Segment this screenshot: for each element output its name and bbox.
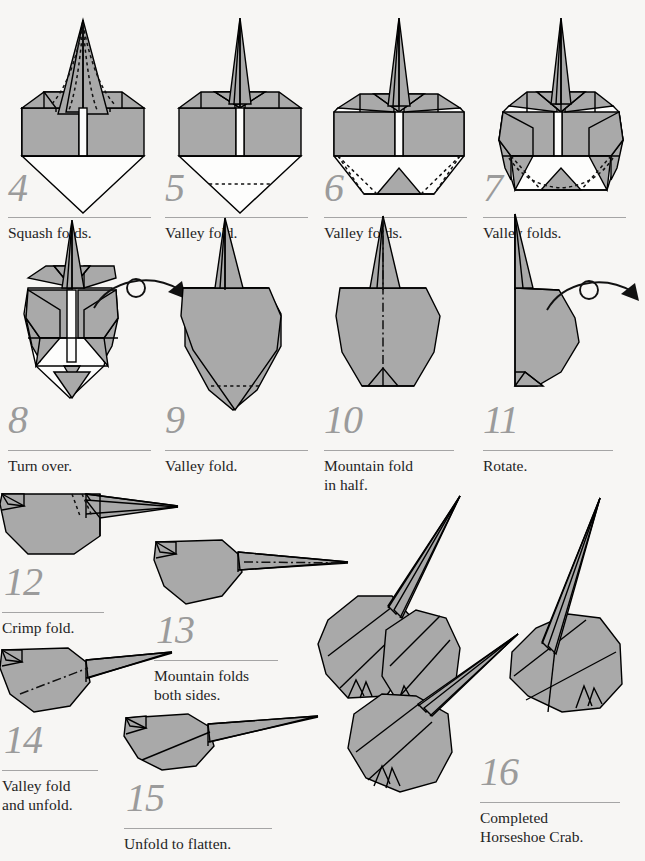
step-9: 9 Valley fold.	[163, 268, 323, 483]
step-number: 7	[483, 168, 502, 208]
step-caption: Valley fold.	[165, 457, 317, 476]
caption-rule	[324, 450, 454, 451]
step-15: 15 Unfold to flatten.	[122, 712, 322, 861]
step-4-figure	[6, 8, 161, 213]
step-caption: Mountain fold in half.	[324, 457, 476, 495]
step-number: 8	[8, 400, 27, 440]
caption-rule	[165, 450, 308, 451]
step-number: 14	[4, 720, 42, 760]
step-number: 15	[126, 778, 164, 818]
step-9-spike	[163, 210, 323, 290]
step-number: 12	[4, 562, 42, 602]
step-5-figure	[163, 8, 318, 213]
step-number: 10	[324, 400, 362, 440]
step-11: 11 Rotate.	[481, 268, 641, 483]
step-10-spike	[322, 210, 482, 290]
step-number: 13	[156, 610, 194, 650]
step-number: 9	[165, 400, 184, 440]
caption-rule	[483, 450, 613, 451]
step-number: 11	[483, 400, 518, 440]
caption-rule	[2, 770, 98, 771]
caption-rule	[480, 802, 620, 803]
origami-instruction-page: 4 Squash folds. 5	[0, 0, 645, 861]
step-caption: Unfold to flatten.	[124, 835, 314, 854]
step-8: 8 Turn over.	[6, 268, 186, 483]
step-16: 16 Completed Horseshoe Crab.	[300, 556, 645, 856]
step-9-figure	[163, 268, 323, 443]
step-caption: Turn over.	[8, 457, 160, 476]
caption-rule	[8, 450, 151, 451]
step-6-figure	[322, 8, 477, 213]
step-caption: Crimp fold.	[2, 619, 162, 638]
running-head-container: Horseshoe Crab	[611, 681, 645, 861]
step-7-figure	[481, 8, 641, 213]
step-10: 10 Mountain fold in half.	[322, 268, 482, 483]
caption-rule	[124, 828, 272, 829]
rotate-arrow-icon	[539, 270, 645, 318]
step-number: 5	[165, 168, 184, 208]
step-number: 6	[324, 168, 343, 208]
step-number: 4	[8, 168, 27, 208]
step-caption: Rotate.	[483, 457, 635, 476]
step-number: 16	[480, 752, 518, 792]
caption-rule	[2, 612, 104, 613]
